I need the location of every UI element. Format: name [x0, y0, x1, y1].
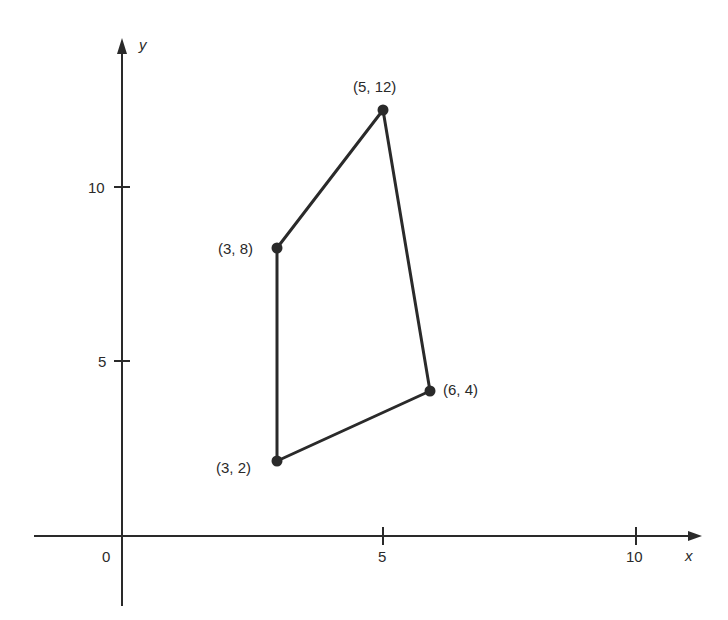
- vertex-label-3-8: (3, 8): [218, 240, 253, 257]
- x-tick-label-10: 10: [626, 548, 643, 565]
- vertex-3-8: [272, 243, 283, 254]
- coordinate-plot: 0 5 10 10 5 x y (3, 2) (6, 4) (5, 12) (3…: [0, 0, 728, 620]
- vertex-label-5-12: (5, 12): [353, 78, 396, 95]
- vertex-label-3-2: (3, 2): [216, 459, 251, 476]
- origin-label: 0: [102, 548, 110, 565]
- x-axis-label: x: [684, 547, 693, 564]
- x-tick-label-5: 5: [378, 548, 386, 565]
- vertex-6-4: [425, 386, 436, 397]
- vertex-3-2: [272, 456, 283, 467]
- quadrilateral: [277, 110, 430, 461]
- y-axis-arrow-icon: [117, 38, 127, 54]
- y-tick-label-5: 5: [98, 353, 106, 370]
- vertex-5-12: [378, 105, 389, 116]
- y-tick-label-10: 10: [88, 179, 105, 196]
- x-axis-arrow-icon: [688, 531, 702, 541]
- vertex-label-6-4: (6, 4): [443, 381, 478, 398]
- y-axis-label: y: [138, 36, 148, 53]
